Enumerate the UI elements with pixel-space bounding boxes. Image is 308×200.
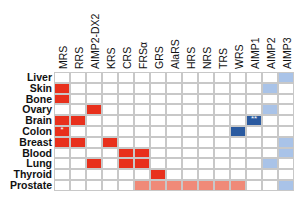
heatmap-cell bbox=[246, 158, 262, 169]
heatmap-cell bbox=[182, 115, 198, 126]
heatmap-cell bbox=[86, 137, 102, 148]
heatmap-cell bbox=[198, 137, 214, 148]
heatmap-cell bbox=[262, 126, 278, 137]
column-label-text: WRS bbox=[233, 45, 245, 70]
heatmap-cell bbox=[166, 104, 182, 115]
heatmap-cell bbox=[102, 137, 118, 148]
heatmap-cell bbox=[166, 137, 182, 148]
heatmap-cell bbox=[86, 169, 102, 180]
heatmap-cell bbox=[182, 94, 198, 105]
heatmap-cell bbox=[54, 148, 70, 159]
heatmap-cell bbox=[182, 180, 198, 191]
heatmap-cell bbox=[230, 180, 246, 191]
heatmap-cell bbox=[182, 104, 198, 115]
heatmap-cell bbox=[86, 180, 102, 191]
heatmap-cell bbox=[86, 158, 102, 169]
heatmap-cell bbox=[118, 126, 134, 137]
heatmap-cell bbox=[134, 94, 150, 105]
heatmap-cell bbox=[214, 137, 230, 148]
heatmap-cell bbox=[86, 94, 102, 105]
heatmap-cell bbox=[118, 104, 134, 115]
column-label: HRS bbox=[182, 0, 198, 69]
heatmap-cell bbox=[214, 158, 230, 169]
heatmap-cell bbox=[86, 83, 102, 94]
heatmap-cell bbox=[134, 83, 150, 94]
heatmap-cell bbox=[150, 180, 166, 191]
heatmap-cell bbox=[102, 83, 118, 94]
heatmap-cell bbox=[214, 148, 230, 159]
heatmap-cell bbox=[278, 158, 294, 169]
heatmap-cell bbox=[54, 158, 70, 169]
heatmap-cell bbox=[86, 126, 102, 137]
column-label: TRS bbox=[214, 0, 230, 69]
column-label-text: NRS bbox=[201, 47, 213, 69]
column-label-text: KRS bbox=[105, 47, 117, 69]
heatmap-cell bbox=[198, 180, 214, 191]
heatmap-cell bbox=[246, 126, 262, 137]
heatmap-cell bbox=[198, 83, 214, 94]
heatmap-cell bbox=[118, 148, 134, 159]
heatmap-cell bbox=[262, 169, 278, 180]
heatmap-cell bbox=[214, 169, 230, 180]
heatmap-cell bbox=[166, 115, 182, 126]
column-label: GRS bbox=[150, 0, 166, 69]
heatmap-cell bbox=[102, 104, 118, 115]
column-label: AIMP2 bbox=[262, 0, 278, 69]
heatmap-cell bbox=[246, 148, 262, 159]
heatmap-cell: * bbox=[54, 126, 70, 137]
heatmap-cell bbox=[86, 72, 102, 83]
column-label-text: HRS bbox=[185, 47, 197, 69]
heatmap-cell bbox=[70, 94, 86, 105]
heatmap-cell bbox=[150, 104, 166, 115]
heatmap-cell bbox=[134, 104, 150, 115]
heatmap-cell bbox=[54, 72, 70, 83]
heatmap-cell bbox=[118, 72, 134, 83]
heatmap-cell bbox=[70, 104, 86, 115]
heatmap-cell bbox=[262, 83, 278, 94]
heatmap-cell bbox=[262, 115, 278, 126]
heatmap-cell bbox=[166, 72, 182, 83]
heatmap-cell bbox=[70, 180, 86, 191]
heatmap-cell bbox=[166, 126, 182, 137]
heatmap-cell bbox=[166, 169, 182, 180]
heatmap-cell: ** bbox=[246, 115, 262, 126]
heatmap-cell bbox=[102, 126, 118, 137]
heatmap-cell bbox=[214, 180, 230, 191]
heatmap-cell bbox=[198, 115, 214, 126]
heatmap-cell bbox=[70, 158, 86, 169]
column-label-text: AIMP1 bbox=[249, 37, 261, 69]
heatmap-cell bbox=[70, 148, 86, 159]
heatmap-cell bbox=[118, 169, 134, 180]
heatmap-cell bbox=[54, 83, 70, 94]
heatmap-cell bbox=[230, 158, 246, 169]
heatmap-cell bbox=[230, 137, 246, 148]
row-label: Skin bbox=[0, 83, 52, 94]
heatmap-cell bbox=[230, 169, 246, 180]
heatmap-cell bbox=[198, 148, 214, 159]
heatmap-cell bbox=[102, 72, 118, 83]
column-label-text: CRS bbox=[121, 47, 133, 69]
heatmap-cell bbox=[278, 148, 294, 159]
heatmap-cell bbox=[118, 115, 134, 126]
heatmap-cell bbox=[182, 169, 198, 180]
column-label: KRS bbox=[102, 0, 118, 69]
heatmap-cell bbox=[86, 104, 102, 115]
heatmap-cell bbox=[182, 72, 198, 83]
heatmap-cell bbox=[182, 83, 198, 94]
column-label: AIMP1 bbox=[246, 0, 262, 69]
heatmap-chart: MRSRRSAIMP2-DX2KRSCRSFRSαGRSAlaRSHRSNRST… bbox=[0, 0, 308, 200]
heatmap-cell bbox=[198, 104, 214, 115]
heatmap-cell bbox=[182, 126, 198, 137]
heatmap-cell bbox=[134, 126, 150, 137]
heatmap-cell bbox=[198, 126, 214, 137]
heatmap-cell bbox=[134, 137, 150, 148]
heatmap-cell bbox=[182, 148, 198, 159]
column-label-text: TRS bbox=[217, 48, 229, 69]
column-label: RRS bbox=[70, 0, 86, 69]
heatmap-cell bbox=[70, 83, 86, 94]
heatmap-cell bbox=[54, 169, 70, 180]
heatmap-cell bbox=[278, 137, 294, 148]
heatmap-cell bbox=[134, 115, 150, 126]
heatmap-cell bbox=[262, 137, 278, 148]
heatmap-cell bbox=[278, 126, 294, 137]
